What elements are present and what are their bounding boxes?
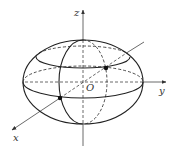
point-upper-right (104, 66, 108, 70)
point-lower-left (58, 96, 62, 100)
x-axis-label: x (13, 132, 19, 143)
x-axis-front (12, 98, 60, 130)
y-axis-label: y (158, 85, 165, 96)
ellipsoid-diagram: z y x O (0, 0, 174, 162)
origin-label: O (86, 82, 94, 93)
x-axis-back-outside (128, 42, 144, 52)
z-axis-label: z (73, 7, 80, 18)
